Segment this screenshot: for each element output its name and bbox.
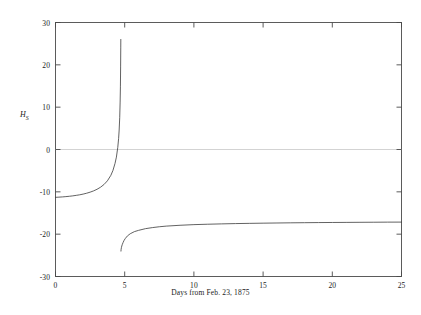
data-curves [56,39,402,251]
plot-canvas [0,0,421,315]
x-axis-label: Days from Feb. 23, 1875 [0,288,421,297]
y-axis-label: HS [20,110,29,121]
y-tick-label: -10 [24,187,50,196]
data-series-branch-left [56,39,121,197]
y-tick-label: 30 [24,18,50,27]
y-tick-label: 20 [24,60,50,69]
chart-figure: 3020100-10-20-30 0510152025 Days from Fe… [0,0,421,315]
y-axis-label-subscript: S [26,115,29,121]
y-tick-label: -30 [24,272,50,281]
y-tick-label: 0 [24,145,50,154]
data-series-branch-right [121,222,402,251]
y-tick-label: -20 [24,230,50,239]
